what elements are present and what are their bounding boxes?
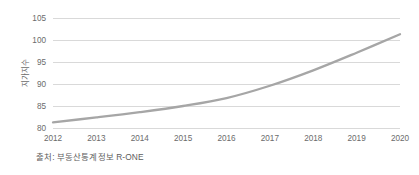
line-chart: 80859095100105 2012201320142015201620172… xyxy=(0,0,419,145)
y-tick-label: 95 xyxy=(37,58,47,67)
x-tick-label: 2013 xyxy=(87,134,106,143)
x-tick-label: 2012 xyxy=(44,134,63,143)
x-tick-label: 2017 xyxy=(261,134,280,143)
y-axis-tick-labels: 80859095100105 xyxy=(32,14,46,133)
x-tick-label: 2014 xyxy=(131,134,150,143)
chart-figure: 80859095100105 2012201320142015201620172… xyxy=(0,0,419,175)
x-axis-tick-labels: 201220132014201520162017201820192020 xyxy=(44,134,410,143)
source-caption: 출처: 부동산통계정보 R-ONE xyxy=(36,150,144,162)
x-tick-label: 2020 xyxy=(391,134,410,143)
x-tick-label: 2019 xyxy=(348,134,367,143)
y-axis-title-text: 지가지수 xyxy=(21,59,30,87)
series-line xyxy=(53,34,400,122)
y-axis-title: 지가지수 xyxy=(21,59,30,87)
y-tick-label: 90 xyxy=(37,80,47,89)
y-tick-label: 105 xyxy=(32,14,46,23)
x-tick-label: 2018 xyxy=(304,134,323,143)
y-tick-label: 100 xyxy=(32,36,46,45)
x-tick-label: 2016 xyxy=(217,134,236,143)
x-tick-label: 2015 xyxy=(174,134,193,143)
y-tick-label: 85 xyxy=(37,102,47,111)
gridlines xyxy=(53,18,400,128)
chart-canvas: 80859095100105 2012201320142015201620172… xyxy=(0,0,419,145)
y-tick-label: 80 xyxy=(37,124,47,133)
series-line-group xyxy=(53,34,400,122)
